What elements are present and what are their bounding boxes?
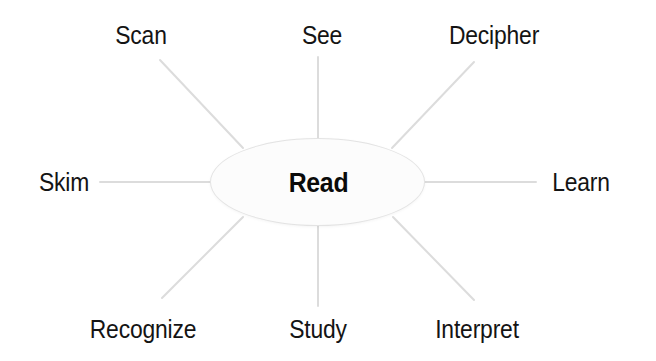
spoke-line-scan <box>160 60 243 148</box>
node-label-recognize[interactable]: Recognize <box>90 316 197 342</box>
node-label-interpret[interactable]: Interpret <box>435 316 519 342</box>
node-label-learn[interactable]: Learn <box>552 169 610 195</box>
node-label-decipher[interactable]: Decipher <box>449 22 539 48</box>
node-label-see[interactable]: See <box>302 22 342 48</box>
node-label-skim[interactable]: Skim <box>39 169 89 195</box>
node-label-study[interactable]: Study <box>289 316 347 342</box>
spoke-line-decipher <box>392 62 474 148</box>
radial-diagram: Read Scan See Decipher Skim Learn Recogn… <box>0 0 656 361</box>
node-label-scan[interactable]: Scan <box>115 22 166 48</box>
center-node-label: Read <box>220 139 418 227</box>
spoke-line-recognize <box>162 217 243 298</box>
center-node-read[interactable]: Read <box>210 138 425 226</box>
spoke-line-interpret <box>393 217 474 300</box>
